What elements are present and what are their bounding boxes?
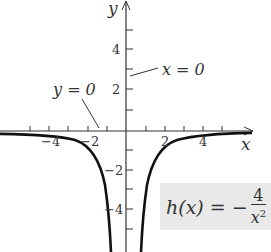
y-ticks [126,30,133,229]
x-tick-label-4: 4 [199,134,207,149]
annotation-x0: x = 0 [162,60,205,79]
y-axis-label: y [107,0,118,18]
x-tick-label-2: 2 [161,134,169,149]
curve-left-branch [0,134,111,252]
formula-numerator: 4 [251,187,265,205]
y-tick-label-2: 2 [112,82,120,97]
annotation-y0: y = 0 [52,80,96,99]
annotation-x0-pointer [130,68,158,76]
function-formula: h(x) = − 4 x2 [166,187,266,226]
y-tick-label-neg4: −4 [104,202,123,217]
formula-lhs: h(x) = − [166,196,248,218]
x-axis-label: x [241,134,251,154]
annotation-y0-pointer [82,99,99,128]
x-tick-label-neg4: −4 [41,134,60,149]
y-tick-label-neg2: −2 [104,163,123,178]
formula-fraction: 4 x2 [251,187,266,226]
y-tick-label-4: 4 [112,42,120,57]
formula-denominator: x2 [251,205,266,226]
x-tick-label-neg2: −2 [80,134,99,149]
